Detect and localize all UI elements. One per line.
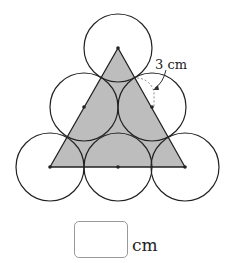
circles	[16, 14, 219, 201]
answer-unit: cm	[132, 237, 158, 254]
answer-input-box[interactable]	[74, 221, 128, 258]
arrow-head	[153, 85, 159, 90]
label-pointer-arrow	[155, 70, 166, 88]
measure-label: 3 cm	[155, 57, 187, 72]
triangle-circles-diagram: 3 cm	[0, 0, 233, 210]
answer-row: cm	[74, 221, 158, 258]
